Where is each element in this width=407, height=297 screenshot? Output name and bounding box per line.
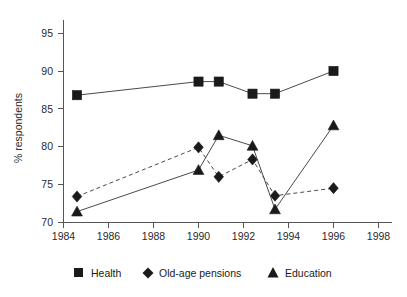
- x-tick-label: 1996: [322, 230, 346, 242]
- chart-legend: Health Old-age pensions Education: [74, 267, 332, 279]
- y-tick-label: 70: [41, 216, 53, 228]
- x-tick-label: 1994: [277, 230, 301, 242]
- square-icon: [74, 268, 83, 277]
- data-point-triangle: [193, 165, 204, 175]
- chart-container: % respondents 95 90 85 80 75 70: [0, 0, 407, 297]
- x-tick-label: 1998: [367, 230, 391, 242]
- series-old-age-pensions: [72, 142, 338, 202]
- y-tick-label: 75: [41, 178, 53, 190]
- data-point-triangle: [72, 206, 83, 216]
- x-axis-ticks: 1984 1986 1988 1990 1992 1994 1996 1998: [52, 223, 391, 243]
- legend-item-education[interactable]: Education: [268, 267, 332, 279]
- data-point-triangle: [213, 130, 224, 140]
- diamond-icon: [143, 268, 154, 279]
- series-layer: [72, 66, 339, 216]
- x-tick-label: 1988: [142, 230, 166, 242]
- data-point-triangle: [270, 204, 281, 214]
- data-point-square: [194, 77, 203, 86]
- legend-label: Old-age pensions: [159, 267, 241, 279]
- data-point-diamond: [194, 142, 204, 153]
- series-line: [77, 125, 334, 211]
- data-point-diamond: [329, 183, 339, 194]
- y-axis-ticks: 95 90 85 80 75 70: [41, 27, 63, 228]
- legend-item-health[interactable]: Health: [74, 267, 122, 279]
- x-tick-label: 1992: [232, 230, 256, 242]
- data-point-square: [72, 91, 81, 100]
- data-point-square: [214, 77, 223, 86]
- data-point-square: [248, 89, 257, 98]
- data-point-triangle: [247, 140, 258, 150]
- x-tick-label: 1984: [52, 230, 76, 242]
- y-tick-label: 95: [41, 27, 53, 39]
- series-health: [72, 66, 338, 99]
- series-education: [72, 120, 339, 216]
- legend-item-old-age-pensions[interactable]: Old-age pensions: [143, 267, 242, 279]
- data-point-diamond: [214, 171, 224, 182]
- x-tick-label: 1986: [97, 230, 121, 242]
- series-line: [77, 71, 334, 95]
- data-point-triangle: [328, 120, 339, 130]
- data-point-square: [270, 89, 279, 98]
- data-point-diamond: [72, 191, 82, 202]
- data-point-square: [329, 66, 338, 75]
- triangle-icon: [268, 267, 279, 278]
- y-tick-label: 80: [41, 140, 53, 152]
- legend-label: Health: [91, 267, 122, 279]
- legend-label: Education: [285, 267, 332, 279]
- x-tick-label: 1990: [187, 230, 211, 242]
- y-tick-label: 90: [41, 65, 53, 77]
- y-axis-title: % respondents: [12, 93, 24, 163]
- series-line: [77, 147, 334, 196]
- y-tick-label: 85: [41, 103, 53, 115]
- line-chart: % respondents 95 90 85 80 75 70: [0, 0, 407, 297]
